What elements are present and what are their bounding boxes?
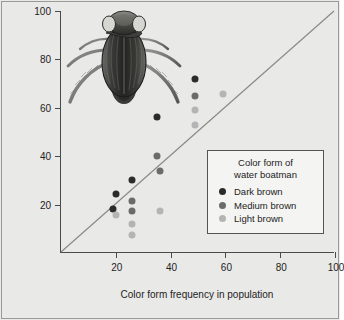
legend-item-label: Light brown — [234, 213, 283, 224]
y-axis-tick: 60 — [55, 108, 61, 109]
legend-item: Dark brown — [219, 186, 318, 197]
data-point — [112, 212, 119, 219]
data-point — [153, 153, 160, 160]
x-axis-tick: 80 — [280, 252, 281, 258]
data-point — [156, 167, 163, 174]
data-point — [192, 107, 199, 114]
y-axis-tick: 40 — [55, 156, 61, 157]
legend-swatch-icon — [219, 202, 226, 209]
legend-item-label: Dark brown — [234, 186, 283, 197]
y-axis-tick: 20 — [55, 205, 61, 206]
x-axis-tick: 60 — [225, 252, 226, 258]
data-point — [192, 92, 199, 99]
y-axis-tick-label: 60 — [40, 104, 51, 114]
legend-item: Medium brown — [219, 200, 318, 211]
data-point — [153, 114, 160, 121]
legend-title-line1: Color form of — [213, 157, 318, 169]
data-point — [129, 177, 136, 184]
y-axis-tick-label: 80 — [40, 55, 51, 65]
legend-title: Color form of water boatman — [213, 157, 318, 180]
legend-item: Light brown — [219, 213, 318, 224]
data-point — [219, 91, 226, 98]
data-point — [129, 207, 136, 214]
data-point — [192, 121, 199, 128]
data-point — [129, 231, 136, 238]
y-axis-tick-label: 20 — [40, 201, 51, 211]
data-point — [129, 220, 136, 227]
x-axis-title: Color form frequency in population — [60, 289, 334, 300]
x-axis-tick: 100 — [335, 252, 336, 258]
legend-title-line2: water boatman — [213, 169, 318, 181]
x-axis-tick-label: 60 — [221, 263, 232, 273]
y-axis-tick-label: 100 — [34, 7, 51, 17]
legend: Color form of water boatman Dark brownMe… — [207, 150, 324, 234]
data-point — [112, 190, 119, 197]
x-axis-tick-label: 40 — [166, 263, 177, 273]
data-point — [192, 75, 199, 82]
y-axis-tick: 100 — [55, 11, 61, 12]
x-axis-tick-label: 100 — [328, 263, 344, 273]
legend-swatch-icon — [219, 215, 226, 222]
x-axis-tick-label: 80 — [276, 263, 287, 273]
x-axis-title-text: Color form frequency in population — [121, 289, 274, 300]
legend-item-label: Medium brown — [234, 200, 296, 211]
y-axis-tick: 80 — [55, 59, 61, 60]
x-axis-tick: 20 — [116, 252, 117, 258]
legend-swatch-icon — [219, 188, 226, 195]
x-axis-tick-label: 20 — [111, 263, 122, 273]
x-axis-tick: 40 — [171, 252, 172, 258]
y-axis-tick-label: 40 — [40, 152, 51, 162]
data-point — [156, 207, 163, 214]
data-point — [129, 197, 136, 204]
legend-entries: Dark brownMedium brownLight brown — [213, 186, 318, 224]
